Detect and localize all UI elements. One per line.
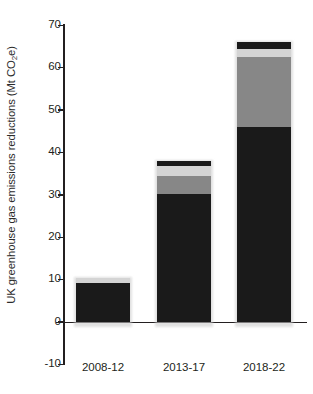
y-tick-label-40: 40 [48, 146, 61, 158]
bar-2013-17-segment-3 [157, 166, 211, 176]
x-axis-label-2008-12: 2008-12 [58, 361, 148, 373]
y-tick-label-20: 20 [48, 231, 61, 243]
y-axis-title-text: UK greenhouse gas emissions reductions (… [5, 46, 19, 304]
y-tick-label-30: 30 [48, 189, 61, 201]
y-tick-label-60: 60 [48, 61, 61, 73]
bar-2018-22-segment-4 [237, 42, 291, 49]
y-tick-label-50: 50 [48, 104, 61, 116]
y-axis-title-subscript: 2 [10, 56, 19, 60]
y-axis-title: UK greenhouse gas emissions reductions (… [0, 0, 24, 350]
bar-2018-22-segment-1 [237, 127, 291, 322]
bar-2018-22-segment-2 [237, 57, 291, 127]
bar-2013-17[interactable] [157, 161, 211, 322]
y-tick-label-0: 0 [55, 316, 61, 328]
x-axis-label-2018-22: 2018-22 [219, 361, 309, 373]
y-axis-title-after: e) [5, 46, 17, 56]
bar-2008-12-segment-1 [76, 283, 130, 322]
y-tick-label-70: 70 [48, 19, 61, 31]
bar-2018-22[interactable] [237, 42, 291, 322]
bar-2013-17-segment-1 [157, 194, 211, 322]
x-axis-label-2013-17: 2013-17 [139, 361, 229, 373]
y-tick-label-10: 10 [48, 273, 61, 285]
bar-2013-17-segment-2 [157, 176, 211, 194]
chart-container: UK greenhouse gas emissions reductions (… [0, 0, 313, 394]
y-axis-title-before: UK greenhouse gas emissions reductions (… [5, 60, 17, 304]
bar-2008-12[interactable] [76, 278, 130, 322]
bar-2018-22-segment-3 [237, 49, 291, 57]
